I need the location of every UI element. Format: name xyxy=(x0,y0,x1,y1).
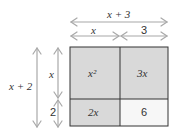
left-inner-top-arrow-icon xyxy=(54,48,62,98)
left-outer-arrow-icon xyxy=(33,48,41,127)
left-outer-label: x + 2 xyxy=(9,81,32,92)
left-inner-top-label: x xyxy=(49,69,54,80)
top-inner-left-label: x xyxy=(91,25,96,36)
cell-6-label: 6 xyxy=(141,107,147,118)
cell-3x-label: 3x xyxy=(137,68,147,79)
cell-x-squared-label: x² xyxy=(88,68,96,79)
left-inner-bottom-label: 2 xyxy=(50,107,56,118)
top-inner-right-label: 3 xyxy=(141,25,147,36)
top-outer-label: x + 3 xyxy=(107,9,130,20)
cell-2x-label: 2x xyxy=(88,107,98,118)
